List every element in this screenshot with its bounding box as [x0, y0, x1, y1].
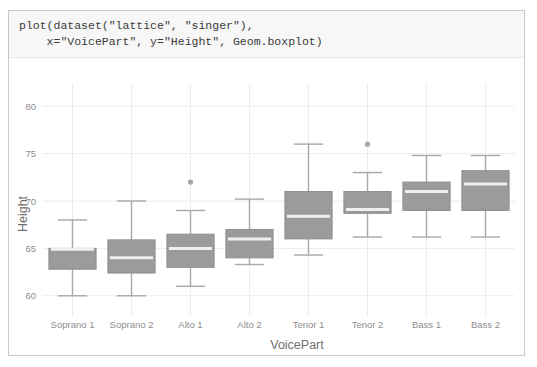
box-rect: [403, 182, 450, 210]
boxplot-box: [49, 220, 96, 296]
outlier-point: [365, 142, 370, 147]
code-line-2: x="VoicePart", y="Height", Geom.boxplot): [19, 34, 524, 50]
x-axis-category-label: Bass 2: [471, 319, 500, 330]
boxplot-box: [226, 199, 273, 264]
boxplot-box: [462, 156, 509, 238]
x-axis-category-label: Tenor 2: [352, 319, 384, 330]
y-axis-tick-label: 80: [25, 101, 36, 112]
boxplot-box: [403, 156, 450, 238]
x-axis-category-label: Soprano 1: [51, 319, 95, 330]
code-line-1: plot(dataset("lattice", "singer"),: [19, 18, 524, 34]
box-rect: [49, 248, 96, 269]
x-axis-category-label: Soprano 2: [110, 319, 154, 330]
x-axis-category-label: Tenor 1: [293, 319, 325, 330]
x-axis-category-label: Alto 2: [237, 319, 261, 330]
y-axis-tick-label: 75: [25, 148, 36, 159]
boxplot-figure: 6065707580 Soprano 1Soprano 2Alto 1Alto …: [9, 64, 524, 356]
box-rect: [167, 234, 214, 267]
truncated-top-row: [0, 0, 537, 9]
notebook-output-cell: plot(dataset("lattice", "singer"), x="Vo…: [8, 10, 525, 356]
boxplot-series: [49, 142, 509, 296]
x-axis-category-labels: Soprano 1Soprano 2Alto 1Alto 2Tenor 1Ten…: [51, 319, 500, 330]
x-axis-category-label: Alto 1: [178, 319, 202, 330]
outlier-point: [188, 179, 193, 184]
boxplot-svg: 6065707580 Soprano 1Soprano 2Alto 1Alto …: [9, 64, 524, 356]
x-axis-category-label: Bass 1: [412, 319, 441, 330]
boxplot-box: [108, 201, 155, 296]
code-input-block[interactable]: plot(dataset("lattice", "singer"), x="Vo…: [9, 11, 524, 58]
boxplot-box: [285, 144, 332, 255]
y-axis-tick-label: 65: [25, 243, 36, 254]
x-axis-title: VoicePart: [270, 338, 324, 352]
box-rect: [462, 171, 509, 211]
y-axis-tick-label: 60: [25, 290, 36, 301]
box-rect: [226, 229, 273, 257]
y-axis-title: Height: [16, 195, 30, 232]
